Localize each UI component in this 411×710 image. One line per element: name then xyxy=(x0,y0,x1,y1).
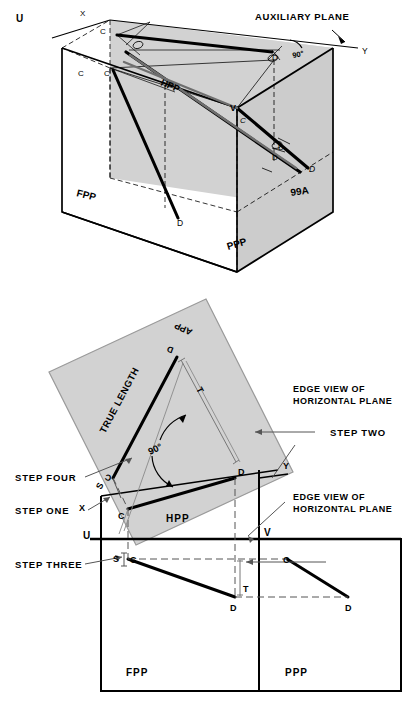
ortho-axis-y: Y xyxy=(283,461,289,471)
pictorial-axis-v: V xyxy=(230,103,236,113)
hpp-point-c: C xyxy=(118,511,125,521)
pictorial-fpp-label: FPP xyxy=(76,187,98,202)
orthographic-figure: APP TRUE LENGTH 90° T T S S U V X Y HPP … xyxy=(15,299,401,691)
ortho-hpp-label: HPP xyxy=(166,513,190,524)
step-four-label: STEP FOUR xyxy=(15,472,76,483)
ortho-axis-u: U xyxy=(83,530,90,541)
pictorial-point-d3: D xyxy=(309,164,315,174)
auxiliary-plane-label: AUXILIARY PLANE xyxy=(255,11,350,22)
pictorial-point-d4: D xyxy=(278,143,284,152)
fpp-line-cd xyxy=(128,559,235,597)
pictorial-point-c1: C xyxy=(100,27,106,36)
auxiliary-plane-leader xyxy=(332,30,345,42)
ortho-ppp-label: PPP xyxy=(285,667,308,678)
fpp-point-c: C xyxy=(130,555,137,565)
edge-view-1-line2: HORIZONTAL PLANE xyxy=(293,396,392,406)
edge-view-1-line1: EDGE VIEW OF xyxy=(293,384,365,394)
fpp-s-label: S xyxy=(113,554,119,564)
ortho-fpp-label: FPP xyxy=(126,667,148,678)
ortho-axis-v: V xyxy=(264,527,271,538)
hpp-point-d: D xyxy=(238,467,245,477)
drawing-canvas: AUXILIARY PLANE U X Y V 90° HPP FPP PPP … xyxy=(0,0,411,710)
pictorial-axis-y: Y xyxy=(362,46,368,56)
pictorial-point-d1: D xyxy=(177,218,183,228)
fpp-t-label: T xyxy=(243,584,249,594)
shade-app-plane xyxy=(49,299,293,545)
step-two-label: STEP TWO xyxy=(330,427,386,438)
edge-view-2-line1: EDGE VIEW OF xyxy=(293,492,365,502)
auxiliary-plane-arrow xyxy=(338,36,345,44)
pictorial-point-c2: C xyxy=(78,69,84,78)
step-one-label: STEP ONE xyxy=(15,505,69,516)
ppp-point-d: D xyxy=(345,603,352,613)
fpp-point-d: D xyxy=(230,603,237,613)
pictorial-figure: AUXILIARY PLANE U X Y V 90° HPP FPP PPP … xyxy=(16,9,368,272)
pictorial-axis-u: U xyxy=(16,13,23,24)
step-three-label: STEP THREE xyxy=(15,559,82,570)
pictorial-point-d5: D xyxy=(272,53,278,62)
pictorial-point-c3: C xyxy=(104,69,110,78)
pictorial-axis-x: X xyxy=(80,9,86,18)
ppp-line-cd xyxy=(287,559,348,597)
pictorial-point-c4: C xyxy=(240,116,246,125)
edge-view-2-line2: HORIZONTAL PLANE xyxy=(293,504,392,514)
ortho-axis-x: X xyxy=(79,503,85,513)
ppp-point-c: C xyxy=(283,555,290,565)
pictorial-point-d2: D xyxy=(272,153,278,162)
